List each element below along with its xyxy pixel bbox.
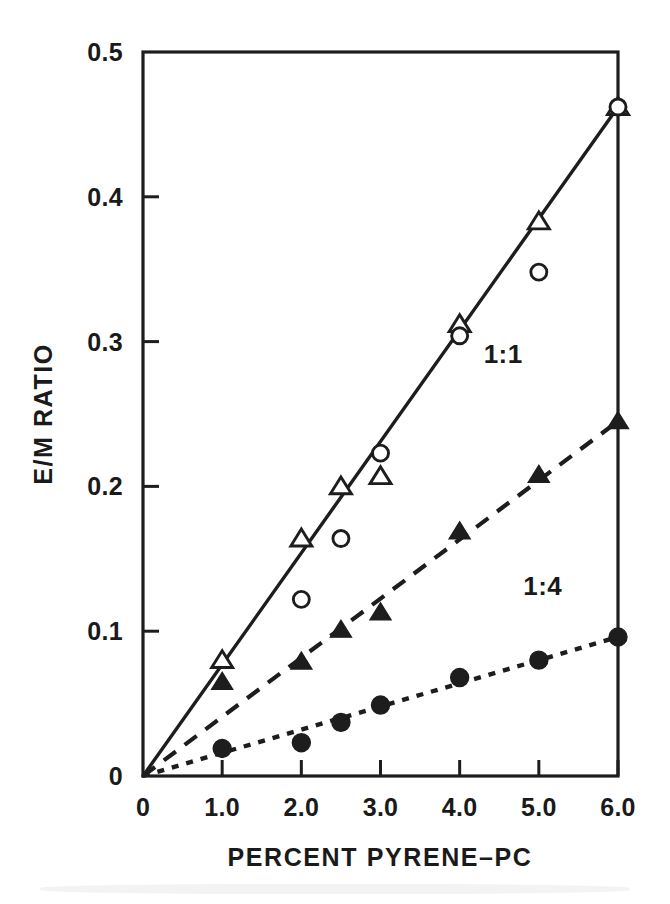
marker-filled-triangle — [330, 620, 351, 637]
x-tick-label: 0 — [136, 793, 150, 821]
series-annotation-label: 1:4 — [523, 571, 562, 601]
x-tick-label: 3.0 — [363, 793, 399, 821]
y-tick-label: 0.2 — [87, 472, 123, 500]
marker-filled-circle — [372, 696, 390, 714]
marker-open-circle — [293, 591, 309, 607]
series-annotations: 1:11:4 — [484, 339, 563, 601]
marker-open-circle — [452, 328, 468, 344]
marker-filled-circle — [292, 734, 310, 752]
marker-filled-circle — [609, 628, 627, 646]
x-axis-title: PERCENT PYRENE–PC — [227, 843, 532, 871]
y-tick-labels: 00.10.20.30.40.5 — [87, 38, 123, 790]
marker-open-circle — [531, 264, 547, 280]
marker-filled-circle — [213, 739, 231, 757]
marker-filled-circle — [332, 713, 350, 731]
y-tick-label: 0.3 — [87, 328, 123, 356]
solid-fit — [143, 107, 618, 776]
y-tick-label: 0.4 — [87, 183, 123, 211]
y-tick-label: 0 — [109, 762, 123, 790]
x-tick-label: 2.0 — [284, 793, 320, 821]
marker-open-triangle — [528, 212, 549, 229]
marker-filled-triangle — [608, 412, 629, 429]
marker-open-triangle — [370, 467, 391, 484]
figure-container: 01.02.03.04.05.06.0 00.10.20.30.40.5 1:1… — [0, 0, 670, 904]
y-tick-label: 0.5 — [87, 38, 123, 66]
x-tick-label: 6.0 — [600, 793, 636, 821]
x-tick-labels: 01.02.03.04.05.06.0 — [136, 793, 636, 821]
marker-filled-triangle — [449, 522, 470, 539]
x-tick-label: 5.0 — [521, 793, 557, 821]
marker-open-circle — [610, 99, 626, 115]
marker-open-triangle — [291, 529, 312, 546]
chart-canvas: 01.02.03.04.05.06.0 00.10.20.30.40.5 1:1… — [0, 0, 670, 904]
series-annotation-label: 1:1 — [484, 339, 523, 369]
marker-filled-circle — [451, 669, 469, 687]
data-markers — [212, 98, 629, 758]
y-axis-title: E/M RATIO — [29, 343, 57, 485]
fit-lines — [143, 107, 618, 776]
marker-open-circle — [373, 445, 389, 461]
marker-filled-circle — [530, 651, 548, 669]
x-tick-label: 1.0 — [204, 793, 240, 821]
marker-filled-triangle — [291, 652, 312, 669]
marker-open-circle — [333, 531, 349, 547]
y-tick-label: 0.1 — [87, 617, 123, 645]
x-tick-label: 4.0 — [442, 793, 478, 821]
